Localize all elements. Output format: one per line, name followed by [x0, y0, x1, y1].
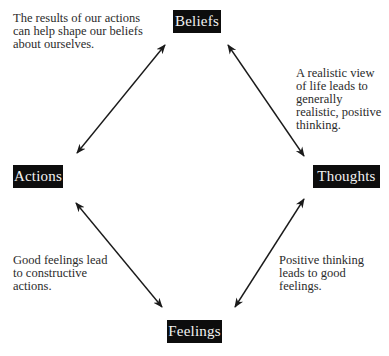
arrow-beliefs-actions — [77, 45, 165, 153]
node-actions: Actions — [13, 165, 63, 188]
note-actions-to-beliefs: The results of our actions can help shap… — [13, 12, 163, 51]
node-thoughts: Thoughts — [313, 165, 380, 188]
note-beliefs-to-thoughts: A realistic view of life leads to genera… — [296, 67, 388, 132]
arrow-beliefs-thoughts — [228, 45, 304, 156]
node-beliefs: Beliefs — [173, 10, 221, 33]
note-feelings-to-actions: Good feelings lead to constructive actio… — [13, 254, 123, 293]
note-thoughts-to-feelings: Positive thinking leads to good feelings… — [279, 254, 384, 293]
node-feelings: Feelings — [167, 320, 222, 343]
